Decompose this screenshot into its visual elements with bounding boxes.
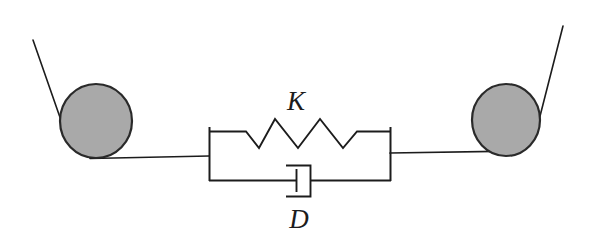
spring-zigzag (209, 119, 391, 148)
diagram-canvas: K D (0, 0, 593, 237)
spring-label: K (286, 86, 307, 116)
right-roller (472, 84, 540, 156)
right-belt-diagonal-line (538, 26, 563, 124)
left-roller (60, 84, 132, 158)
mechanical-model-diagram: K D (0, 0, 593, 237)
left-belt-diagonal-line (33, 40, 63, 126)
dashpot-label: D (288, 204, 309, 234)
